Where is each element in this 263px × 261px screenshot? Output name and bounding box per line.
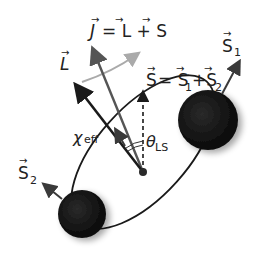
S2-arrow xyxy=(46,186,62,199)
svg-text:→: → xyxy=(19,155,27,166)
label-S-equation: S → = S 1 → +S 2 → xyxy=(146,63,222,94)
svg-text:eff: eff xyxy=(84,133,99,146)
label-J-equation: J → = L + S → → xyxy=(87,14,167,41)
label-chi-eff: χ eff xyxy=(72,128,99,147)
label-theta-LS: θ LS xyxy=(146,132,168,154)
svg-text:1: 1 xyxy=(185,81,192,94)
center-of-mass-dot xyxy=(139,168,147,176)
black-hole-1 xyxy=(178,90,238,150)
J-arrow xyxy=(94,52,143,172)
precession-arrow xyxy=(82,55,136,82)
svg-text:χ: χ xyxy=(72,128,83,147)
svg-text:S: S xyxy=(18,163,29,183)
svg-text:→: → xyxy=(176,63,184,74)
L-arrow xyxy=(78,88,143,172)
label-L: L → xyxy=(60,47,69,74)
theta-LS-arc xyxy=(128,145,143,151)
label-S2: S 2 → xyxy=(18,155,37,187)
binary-spin-diagram: J → = L + S → → L → S → = S 1 → +S 2 → S… xyxy=(0,0,263,261)
svg-text:→: → xyxy=(223,28,231,39)
black-hole-2 xyxy=(58,190,106,238)
svg-text:LS: LS xyxy=(155,141,168,154)
svg-text:1: 1 xyxy=(234,46,241,59)
svg-text:→: → xyxy=(61,47,69,58)
svg-text:→: → xyxy=(91,14,99,25)
svg-text:→: → xyxy=(147,63,155,74)
svg-text:2: 2 xyxy=(215,81,222,94)
S1-arrow xyxy=(222,64,238,94)
svg-text:= L + S: = L + S xyxy=(102,21,167,41)
svg-text:2: 2 xyxy=(30,174,37,187)
svg-text:→: → xyxy=(142,14,150,25)
svg-text:→: → xyxy=(115,14,123,25)
svg-text:→: → xyxy=(204,63,212,74)
svg-text:S: S xyxy=(222,36,233,56)
label-S1: S 1 → xyxy=(222,28,241,59)
